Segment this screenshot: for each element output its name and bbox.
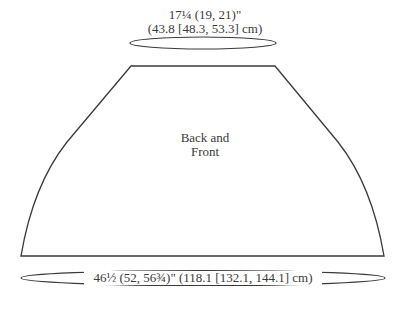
bottom-width-measurement: 46½ (52, 56¾)" (118.1 [132.1, 144.1] cm) <box>84 271 322 285</box>
top-width-measurement: 17¼ (19, 21)" (43.8 [48.3, 53.3] cm) <box>130 8 280 36</box>
piece-label-line-1: Back and <box>155 131 255 145</box>
top-width-imperial: 17¼ (19, 21)" <box>167 8 243 22</box>
piece-label-line-2: Front <box>155 145 255 159</box>
schematic-diagram: 17¼ (19, 21)" (43.8 [48.3, 53.3] cm) Bac… <box>0 0 410 314</box>
back-front-piece-outline <box>21 66 384 256</box>
top-width-measure-ellipse <box>130 37 276 49</box>
top-width-metric: (43.8 [48.3, 53.3] cm) <box>146 22 264 36</box>
piece-label: Back and Front <box>155 131 255 159</box>
